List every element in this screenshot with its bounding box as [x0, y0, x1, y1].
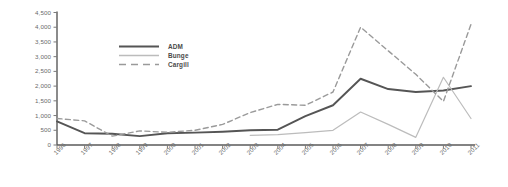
- chart-legend: ADM Bunge Cargill: [118, 42, 189, 69]
- series-line-adm: [57, 79, 471, 136]
- legend-label-adm: ADM: [168, 43, 183, 50]
- legend-swatch-bunge: [118, 51, 160, 60]
- y-tick-label: 4,000: [8, 23, 51, 30]
- y-tick-label: 2,000: [8, 82, 51, 89]
- y-tick-label: 4,500: [8, 9, 51, 16]
- legend-label-cargill: Cargill: [168, 61, 189, 68]
- legend-item-cargill: Cargill: [118, 60, 189, 69]
- y-tick-label: 3,000: [8, 53, 51, 60]
- series-line-bunge: [250, 77, 471, 137]
- y-tick-label: 0: [8, 141, 51, 148]
- legend-item-adm: ADM: [118, 42, 189, 51]
- legend-label-bunge: Bunge: [168, 52, 189, 59]
- y-tick-label: 1,000: [8, 112, 51, 119]
- legend-item-bunge: Bunge: [118, 51, 189, 60]
- chart-plot-area: [0, 0, 508, 187]
- legend-swatch-cargill: [118, 60, 160, 69]
- y-tick-label: 2,500: [8, 67, 51, 74]
- y-tick-label: 500: [8, 126, 51, 133]
- y-tick-label: 3,500: [8, 38, 51, 45]
- line-chart: 05001,0001,5002,0002,5003,0003,5004,0004…: [0, 0, 508, 187]
- legend-swatch-adm: [118, 42, 160, 51]
- y-tick-label: 1,500: [8, 97, 51, 104]
